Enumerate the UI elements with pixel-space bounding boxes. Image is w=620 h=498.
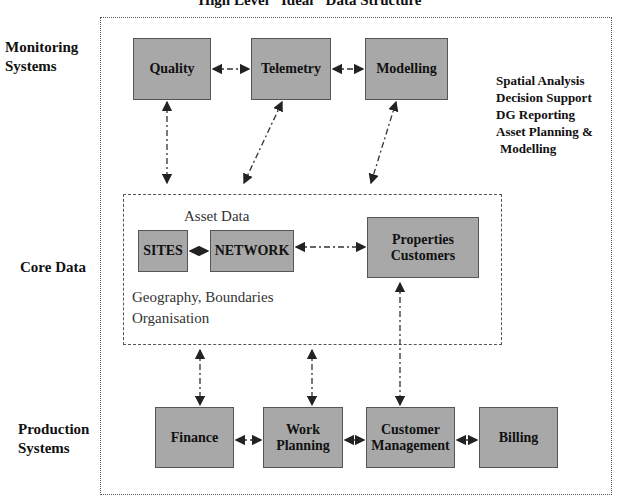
diagram: High Level "Ideal" Data Structure Monito… [0,0,620,498]
connector-arrows [0,0,620,498]
